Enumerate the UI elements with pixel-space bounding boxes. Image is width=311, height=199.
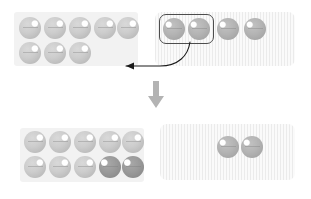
after-destination-ball[interactable] [24,156,46,178]
before-destination-ball[interactable] [19,42,41,64]
after-destination-ball-transferred[interactable] [99,156,121,178]
after-destination-ball[interactable] [49,156,71,178]
transfer-arrow [112,40,192,72]
after-destination-ball[interactable] [74,156,96,178]
diagram-canvas [0,0,311,199]
before-destination-ball[interactable] [44,17,66,39]
before-destination-ball[interactable] [19,17,41,39]
before-destination-ball[interactable] [69,42,91,64]
after-destination-ball[interactable] [74,131,96,153]
after-destination-ball[interactable] [49,131,71,153]
after-destination-ball[interactable] [24,131,46,153]
after-destination-ball-transferred[interactable] [122,156,144,178]
after-source-ball[interactable] [217,136,239,158]
before-destination-ball[interactable] [94,17,116,39]
before-source-ball[interactable] [244,18,266,40]
before-destination-ball[interactable] [44,42,66,64]
after-destination-ball[interactable] [99,131,121,153]
before-destination-ball[interactable] [69,17,91,39]
before-destination-ball[interactable] [117,17,139,39]
after-destination-ball[interactable] [122,131,144,153]
after-source-ball[interactable] [241,136,263,158]
before-source-ball[interactable] [217,18,239,40]
step-down-arrow [147,81,165,109]
